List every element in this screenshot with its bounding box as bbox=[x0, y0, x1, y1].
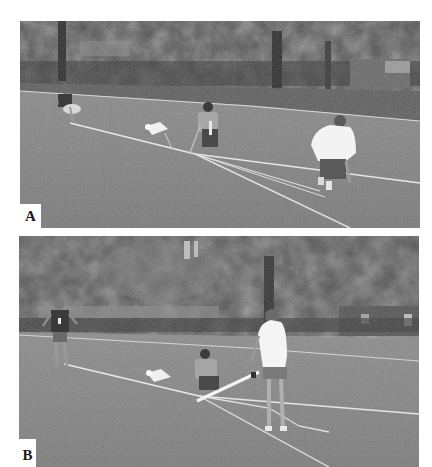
photo-panel-a: A bbox=[20, 21, 420, 228]
panel-label-a: A bbox=[20, 204, 41, 228]
photo-panel-b: B bbox=[19, 236, 419, 467]
photo-a-scene bbox=[20, 21, 420, 228]
panel-label-b: B bbox=[19, 439, 36, 467]
photo-b-scene bbox=[19, 236, 419, 467]
